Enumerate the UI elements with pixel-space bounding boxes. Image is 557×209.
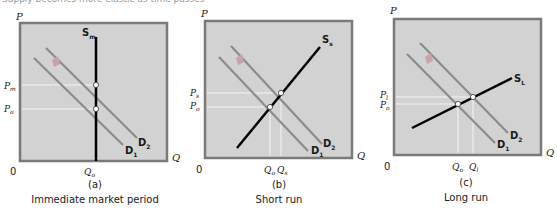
- plot-area: [394, 19, 541, 155]
- y-axis-label: P: [15, 11, 23, 22]
- equilibrium-point-new: [93, 82, 98, 87]
- price-label-ps: Ps: [189, 88, 199, 99]
- price-label-po: Po: [379, 100, 390, 111]
- panel-letter: (c): [459, 177, 472, 188]
- quantity-label-qo: Qo: [264, 165, 275, 176]
- supply-elasticity-diagram: P Sm D2 D1 Pm Po Q 0 Qo (a) Immediate ma…: [0, 0, 557, 209]
- panel-title: Short run: [256, 194, 303, 205]
- equilibrium-point-new: [470, 94, 475, 99]
- x-axis-label: Q: [546, 147, 554, 158]
- x-axis-label: Q: [357, 150, 365, 161]
- panel-b: P Ss D2 D1 Ps Po Q 0 Qo Qs (b) Short run: [189, 8, 365, 205]
- panel-c: P SL D2 D1 Pl Po Q 0 Qo Ql (c) Long run: [379, 5, 554, 203]
- equilibrium-point-initial: [93, 106, 98, 111]
- origin-label: 0: [10, 166, 16, 177]
- quantity-label-qo: Qo: [84, 167, 95, 178]
- quantity-label-ql: Ql: [469, 162, 478, 173]
- panel-title: Long run: [444, 192, 488, 203]
- panel-letter: (a): [88, 179, 102, 190]
- price-label-pm: Pm: [3, 81, 16, 92]
- quantity-label-qs: Qs: [277, 165, 287, 176]
- quantity-label-qo: Qo: [452, 162, 463, 173]
- panel-title: Immediate market period: [31, 194, 159, 205]
- equilibrium-point-initial: [267, 104, 272, 109]
- x-axis-label: Q: [172, 152, 180, 163]
- origin-label: 0: [384, 161, 390, 172]
- panel-a: P Sm D2 D1 Pm Po Q 0 Qo (a) Immediate ma…: [3, 11, 180, 205]
- y-axis-label: P: [200, 8, 208, 19]
- origin-label: 0: [196, 164, 202, 175]
- price-label-po: Po: [3, 104, 14, 115]
- equilibrium-point-new: [278, 90, 283, 95]
- equilibrium-point-initial: [455, 101, 460, 106]
- panel-letter: (b): [272, 179, 286, 190]
- y-axis-label: P: [389, 5, 397, 16]
- price-label-po: Po: [189, 101, 200, 112]
